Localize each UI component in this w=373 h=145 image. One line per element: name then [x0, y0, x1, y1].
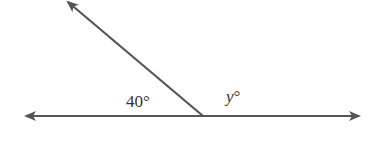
angle-label-y: y° [224, 87, 240, 106]
angle-variable-y: y [224, 87, 234, 106]
angle-diagram: 40° y° [0, 0, 373, 145]
degree-symbol: ° [234, 87, 241, 106]
angle-label-40: 40° [126, 92, 150, 111]
